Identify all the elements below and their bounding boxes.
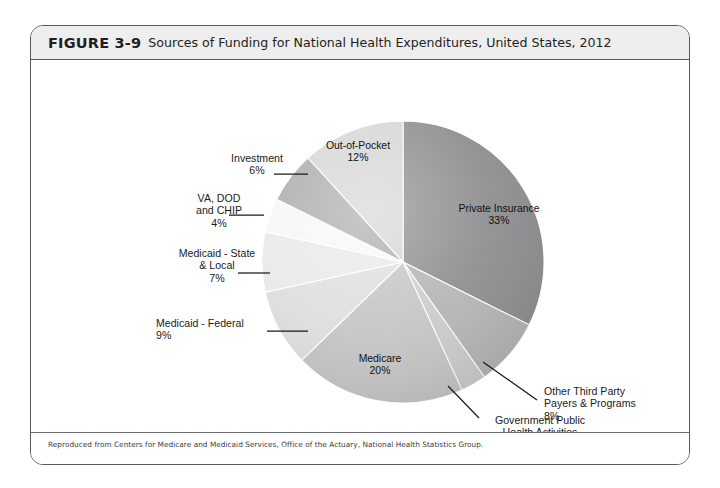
figure-header: FIGURE 3-9 Sources of Funding for Nation…	[31, 26, 689, 60]
pie-slice-label: Medicaid - State& Local7%	[179, 247, 256, 284]
leader-line	[483, 362, 537, 400]
pie-slice-label: Government PublicHealth Activities3%	[495, 414, 586, 432]
pie-slices	[262, 121, 544, 403]
pie-slice-label: Investment6%	[231, 152, 283, 176]
source-note: Reproduced from Centers for Medicare and…	[48, 440, 483, 449]
leader-line	[448, 386, 479, 418]
figure-body: Private Insurance33%Other Third PartyPay…	[31, 60, 689, 432]
figure-number: FIGURE 3-9	[48, 35, 141, 51]
pie-slice-label: Medicaid - Federal9%	[156, 317, 244, 341]
pie-chart: Private Insurance33%Other Third PartyPay…	[31, 60, 689, 432]
figure-footer: Reproduced from Centers for Medicare and…	[31, 432, 689, 464]
figure-frame: FIGURE 3-9 Sources of Funding for Nation…	[30, 25, 690, 465]
figure-title: Sources of Funding for National Health E…	[148, 35, 611, 50]
pie-slice-label: VA, DODand CHIP4%	[196, 192, 242, 229]
